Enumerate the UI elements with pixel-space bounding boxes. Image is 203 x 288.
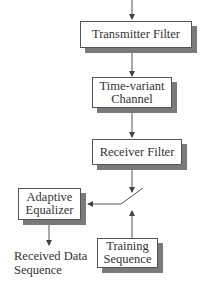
adaptive-equalizer-block: Adaptive Equalizer bbox=[18, 188, 81, 220]
channel-label-line2: Channel bbox=[111, 93, 153, 106]
output-label-line1: Received Data bbox=[14, 250, 87, 264]
receiver-filter-label: Receiver Filter bbox=[100, 146, 175, 159]
received-data-sequence-label: Received Data Sequence bbox=[14, 250, 87, 277]
receiver-filter-block: Receiver Filter bbox=[92, 139, 182, 165]
equalizer-label-line2: Equalizer bbox=[26, 204, 74, 217]
training-sequence-block: Training Sequence bbox=[97, 238, 158, 268]
transmitter-filter-block: Transmitter Filter bbox=[80, 21, 192, 48]
transmitter-filter-label: Transmitter Filter bbox=[92, 28, 180, 41]
output-label-line2: Sequence bbox=[14, 264, 87, 278]
time-variant-channel-block: Time-variant Channel bbox=[92, 77, 172, 108]
training-label-line2: Sequence bbox=[104, 253, 152, 266]
channel-label-line1: Time-variant bbox=[100, 80, 165, 93]
